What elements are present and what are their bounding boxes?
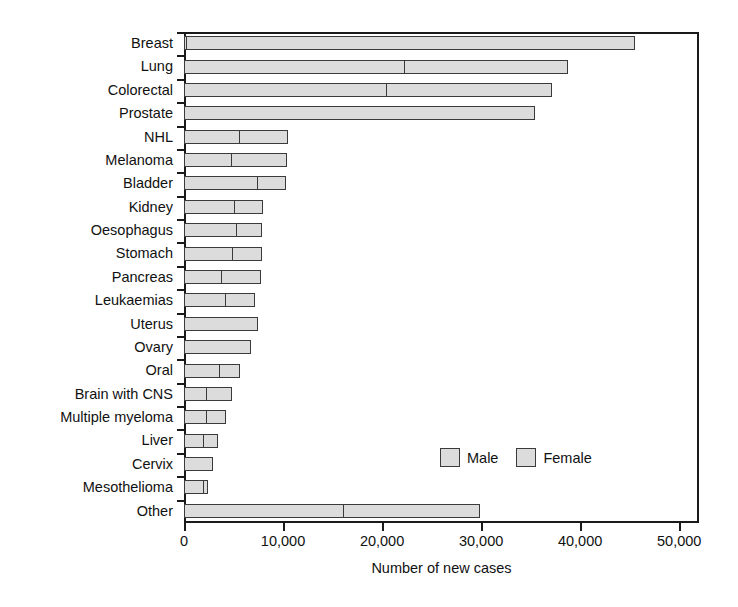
bar-segment-female[interactable] [343,504,480,518]
stacked-bar[interactable] [184,36,635,50]
legend-swatch-male [440,448,460,467]
bar-segment-male[interactable] [184,247,233,261]
bar-segment-female[interactable] [225,293,256,307]
stacked-bar[interactable] [184,106,535,120]
y-axis-tick [177,196,184,198]
stacked-bar[interactable] [184,410,226,424]
bar-segment-female[interactable] [236,223,262,237]
x-axis-tick [481,523,483,531]
y-axis-tick [177,429,184,431]
bar-segment-female[interactable] [219,364,241,378]
y-axis-label-pancreas: Pancreas [0,266,178,289]
x-axis-tick-label: 0 [180,533,188,549]
stacked-bar[interactable] [184,457,213,471]
bar-segment-female[interactable] [206,410,226,424]
x-axis-tick [580,523,582,531]
bar-row [184,383,699,406]
legend-swatch-female [516,448,536,467]
bar-segment-male[interactable] [184,176,258,190]
y-axis-tick [177,242,184,244]
bar-segment-female[interactable] [239,130,288,144]
bar-row [184,242,699,265]
bar-segment-female[interactable] [221,270,262,284]
bar-segment-male[interactable] [184,83,387,97]
bar-segment-female[interactable] [186,36,635,50]
stacked-bar[interactable] [184,434,218,448]
bar-row [184,500,699,523]
bar-segment-female[interactable] [232,247,263,261]
bar-segment-male[interactable] [184,60,405,74]
bar-segment-female[interactable] [184,457,213,471]
x-axis-tick [382,523,384,531]
stacked-bar[interactable] [184,176,286,190]
bar-segment-female[interactable] [206,387,232,401]
bar-segment-male[interactable] [184,106,535,120]
y-axis-labels: BreastLungColorectalProstateNHLMelanomaB… [0,32,178,523]
stacked-bar[interactable] [184,364,240,378]
y-axis-tick [177,266,184,268]
bar-segment-male[interactable] [184,223,237,237]
bar-segment-male[interactable] [184,153,232,167]
y-axis-tick [177,500,184,502]
y-axis-tick [177,55,184,57]
y-axis-tick [177,453,184,455]
bar-segment-male[interactable] [184,293,226,307]
stacked-bar[interactable] [184,387,232,401]
bar-segment-male[interactable] [184,270,222,284]
y-axis-label-lung: Lung [0,55,178,78]
y-axis-tick [177,336,184,338]
bar-segment-female[interactable] [203,434,218,448]
bar-row [184,406,699,429]
bar-segment-male[interactable] [184,387,207,401]
bar-row [184,102,699,125]
bar-segment-female[interactable] [184,340,251,354]
stacked-bar[interactable] [184,480,208,494]
y-axis-tick [177,476,184,478]
stacked-bar[interactable] [184,130,288,144]
bar-segment-female[interactable] [404,60,568,74]
stacked-bar[interactable] [184,247,262,261]
stacked-bar[interactable] [184,153,287,167]
legend-label-female: Female [543,450,591,466]
bar-row [184,55,699,78]
bar-segment-male[interactable] [184,364,220,378]
bar-segment-male[interactable] [184,200,235,214]
stacked-bar[interactable] [184,60,568,74]
bar-segment-female[interactable] [257,176,286,190]
y-axis-label-other: Other [0,500,178,523]
bar-segment-male[interactable] [184,480,204,494]
bar-segment-male[interactable] [184,434,204,448]
bar-row [184,289,699,312]
stacked-bar[interactable] [184,293,255,307]
bar-row [184,149,699,172]
bar-segment-female[interactable] [184,317,258,331]
y-axis-tick [177,383,184,385]
bar-row [184,219,699,242]
bar-segment-female[interactable] [231,153,287,167]
y-axis-label-uterus: Uterus [0,313,178,336]
bar-segment-male[interactable] [184,410,207,424]
stacked-bar[interactable] [184,340,251,354]
stacked-bar[interactable] [184,83,552,97]
y-axis-tick [177,149,184,151]
stacked-bar[interactable] [184,317,258,331]
stacked-bar[interactable] [184,200,263,214]
y-axis-label-leukaemias: Leukaemias [0,289,178,312]
legend-item-male: Male [440,448,498,467]
bar-segment-female[interactable] [203,480,208,494]
bar-row [184,336,699,359]
bar-segment-male[interactable] [184,130,240,144]
legend-item-female: Female [516,448,591,467]
bar-segment-female[interactable] [386,83,552,97]
stacked-bar[interactable] [184,270,261,284]
bar-row [184,313,699,336]
stacked-bar[interactable] [184,504,480,518]
bar-row [184,172,699,195]
x-axis-tick-label: 20,000 [360,533,404,549]
y-axis-tick [177,406,184,408]
bar-segment-female[interactable] [234,200,264,214]
stacked-bar[interactable] [184,223,262,237]
bar-segment-male[interactable] [184,504,344,518]
bar-row [184,359,699,382]
y-axis-label-prostate: Prostate [0,102,178,125]
